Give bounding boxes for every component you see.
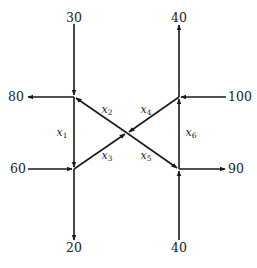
label-in-left-bottom: 60 bbox=[10, 161, 26, 176]
label-x6: x6 bbox=[186, 126, 197, 140]
label-out-right-bottom: 90 bbox=[228, 161, 244, 176]
label-out-top-right: 40 bbox=[171, 10, 187, 25]
traffic-flow-diagram: 30 80 40 100 60 20 90 40 x1 x2 x3 x4 x5 … bbox=[0, 0, 257, 268]
label-x1: x1 bbox=[57, 126, 68, 140]
label-x4: x4 bbox=[141, 103, 152, 117]
label-in-top-left: 30 bbox=[66, 10, 82, 25]
flow-x4 bbox=[129, 97, 179, 132]
label-out-left-top: 80 bbox=[8, 89, 24, 104]
label-x5: x5 bbox=[141, 149, 152, 163]
flow-x5 bbox=[127, 133, 177, 168]
label-in-bottom-right: 40 bbox=[171, 240, 187, 255]
label-x2: x2 bbox=[102, 103, 113, 117]
label-in-right-top: 100 bbox=[228, 89, 252, 104]
flow-x3 bbox=[74, 134, 125, 169]
label-x3: x3 bbox=[102, 149, 113, 163]
label-out-bottom-left: 20 bbox=[66, 240, 82, 255]
